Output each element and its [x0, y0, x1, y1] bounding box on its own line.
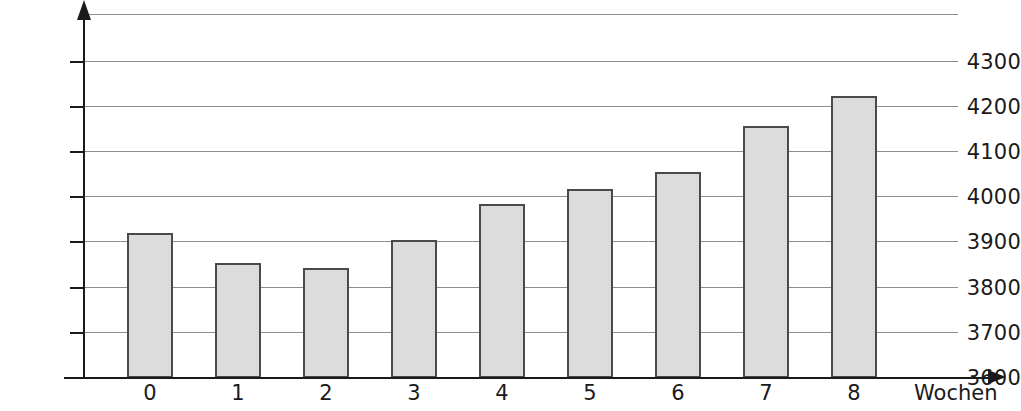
y-tick-4300 — [70, 61, 84, 63]
y-tick-4100 — [70, 151, 84, 153]
x-tick-label-1: 1 — [215, 381, 261, 405]
x-axis-line — [64, 377, 989, 379]
y-tick-3800 — [70, 287, 84, 289]
x-tick-label-2: 2 — [303, 381, 349, 405]
y-tick-label-3800: 3800 — [957, 276, 1021, 300]
bar-1 — [215, 263, 261, 378]
bar-3 — [391, 240, 437, 378]
bar-5 — [567, 189, 613, 378]
x-tick-label-4: 4 — [479, 381, 525, 405]
y-tick-label-3900: 3900 — [957, 230, 1021, 254]
x-axis-title: Wochen — [914, 381, 997, 405]
gridline-4300 — [84, 61, 958, 62]
bar-0 — [127, 233, 173, 378]
bar-7 — [743, 126, 789, 378]
x-tick-label-3: 3 — [391, 381, 437, 405]
x-tick-label-8: 8 — [831, 381, 877, 405]
gridline-4100 — [84, 151, 958, 152]
x-tick-label-5: 5 — [567, 381, 613, 405]
y-tick-3900 — [70, 241, 84, 243]
y-tick-label-3700: 3700 — [957, 321, 1021, 345]
y-tick-3700 — [70, 332, 84, 334]
y-tick-label-4200: 4200 — [957, 95, 1021, 119]
bar-6 — [655, 172, 701, 378]
x-tick-label-7: 7 — [743, 381, 789, 405]
bar-8 — [831, 96, 877, 378]
bar-chart: 4300 4200 4100 4000 3900 3800 3700 3600 … — [0, 0, 1021, 411]
x-tick-label-6: 6 — [655, 381, 701, 405]
x-tick-label-0: 0 — [127, 381, 173, 405]
y-tick-label-4000: 4000 — [957, 185, 1021, 209]
y-tick-4200 — [70, 106, 84, 108]
gridline-4000 — [84, 196, 958, 197]
bar-2 — [303, 268, 349, 378]
bar-4 — [479, 204, 525, 378]
y-tick-label-4300: 4300 — [957, 50, 1021, 74]
y-axis-arrow-icon — [77, 0, 91, 20]
gridline-top — [84, 14, 958, 15]
gridline-4200 — [84, 106, 958, 107]
y-tick-4000 — [70, 196, 84, 198]
y-tick-label-4100: 4100 — [957, 140, 1021, 164]
plot-area: 4300 4200 4100 4000 3900 3800 3700 3600 … — [0, 0, 1021, 411]
